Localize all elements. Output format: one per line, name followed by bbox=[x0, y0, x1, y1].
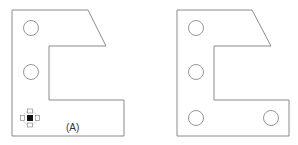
panel-b bbox=[177, 10, 289, 136]
hole-a-1 bbox=[24, 21, 39, 36]
panel-a: (A) bbox=[12, 10, 124, 136]
diagram-canvas: (A) bbox=[0, 0, 298, 145]
hole-b-3 bbox=[189, 111, 204, 126]
hole-b-1 bbox=[189, 21, 204, 36]
hole-b-4 bbox=[264, 111, 279, 126]
panel-label-a: (A) bbox=[66, 122, 79, 133]
hole-b-2 bbox=[189, 65, 204, 80]
hole-a-2 bbox=[24, 65, 39, 80]
